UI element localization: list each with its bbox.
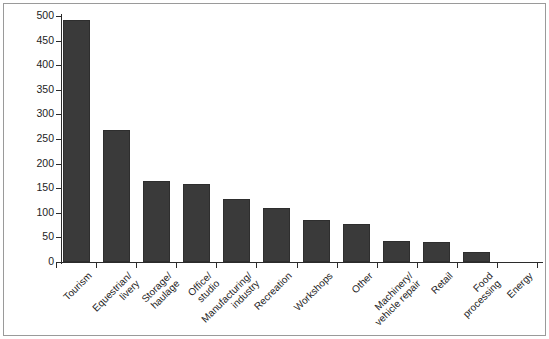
x-tick-mark [537,262,538,268]
x-tick-mark [256,262,257,268]
x-tick-mark [96,262,97,268]
bar[interactable] [303,220,330,262]
x-tick-mark [136,262,137,268]
bar[interactable] [423,242,450,262]
x-tick-mark [176,262,177,268]
y-tick-label: 400 [36,58,54,70]
bar[interactable] [223,199,250,262]
x-tick-mark [337,262,338,268]
bar[interactable] [143,181,170,262]
bar[interactable] [463,252,490,262]
x-tick-mark [216,262,217,268]
chart-figure: Number of applications 05010015020025030… [0,0,549,339]
y-tick-mark [56,237,62,238]
x-tick-mark [417,262,418,268]
x-tick-mark [297,262,298,268]
y-tick-label: 350 [36,83,54,95]
x-tick-mark [457,262,458,268]
y-tick-label: 300 [36,107,54,119]
bar[interactable] [183,184,210,262]
bar[interactable] [383,241,410,262]
bar[interactable] [343,224,370,262]
y-tick-mark [56,114,62,115]
y-tick-label: 450 [36,34,54,46]
y-tick-label: 100 [36,206,54,218]
x-tick-mark [56,262,57,268]
bar[interactable] [63,20,90,262]
x-axis-line [61,262,543,263]
y-tick-label: 250 [36,132,54,144]
y-tick-label: 0 [48,255,54,267]
y-tick-mark [56,139,62,140]
y-tick-label: 50 [42,230,54,242]
x-tick-mark [497,262,498,268]
y-tick-mark [56,90,62,91]
bar[interactable] [103,130,130,262]
bar[interactable] [263,208,290,262]
y-tick-label: 500 [36,9,54,21]
y-tick-mark [56,188,62,189]
plot-area: 050100150200250300350400450500 [62,16,543,262]
y-tick-mark [56,65,62,66]
y-tick-mark [56,213,62,214]
y-tick-mark [56,16,62,17]
y-tick-label: 200 [36,157,54,169]
y-tick-mark [56,41,62,42]
y-tick-label: 150 [36,181,54,193]
y-tick-mark [56,164,62,165]
x-tick-mark [377,262,378,268]
